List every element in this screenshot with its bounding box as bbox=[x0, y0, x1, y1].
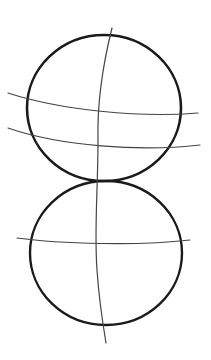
top-horizontal-guide-line-1 bbox=[8, 93, 198, 114]
sketch-drawing bbox=[0, 0, 211, 360]
top-circle bbox=[27, 35, 181, 181]
bottom-circle bbox=[30, 181, 182, 325]
sketch-canvas: Pencil sketch of two stacked circles wit… bbox=[0, 0, 211, 360]
bottom-horizontal-guide-line bbox=[17, 238, 190, 244]
vertical-guide-line bbox=[96, 28, 112, 343]
